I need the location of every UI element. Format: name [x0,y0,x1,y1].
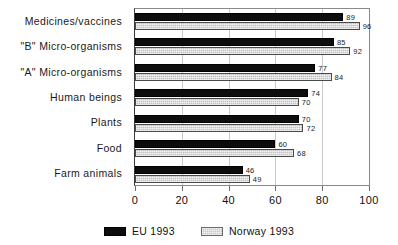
legend-swatch-icon [104,227,126,236]
legend-label: Norway 1993 [229,225,294,237]
bar-value-label: 92 [353,48,362,56]
bar-value-label: 68 [297,150,306,158]
x-axis-tick [229,186,230,191]
category-label: Food [97,142,122,154]
bar-value-label: 46 [246,167,255,175]
category-label: Human beings [50,91,122,103]
x-axis-tick-label: 20 [175,193,188,207]
bar-no [135,73,332,81]
bar-value-label: 49 [253,176,262,184]
bar-no [135,22,360,30]
bar-no [135,175,250,183]
category-axis-labels: Medicines/vaccines"B" Micro-organisms"A"… [0,8,128,186]
category-label: "B" Micro-organisms [20,40,122,52]
bar-group: 6068 [135,140,369,165]
category-label: "A" Micro-organisms [20,66,122,78]
bar-value-label: 72 [306,125,315,133]
bar-eu [135,13,343,21]
legend-label: EU 1993 [132,225,175,237]
x-axis-tick-label: 40 [222,193,235,207]
bar-value-label: 96 [363,23,372,31]
x-axis-tick [322,186,323,191]
bar-no [135,149,294,157]
bar-value-label: 85 [337,39,346,47]
legend-swatch-icon [201,227,223,236]
x-axis-tick-label: 80 [316,193,329,207]
bar-group: 7470 [135,89,369,114]
bar-value-label: 84 [335,74,344,82]
bar-eu [135,166,243,174]
legend-item[interactable]: Norway 1993 [201,225,294,237]
x-axis-tick [275,186,276,191]
x-axis-tick-labels: 020406080100 [134,193,370,207]
bar-no [135,98,299,106]
bar-value-label: 77 [318,65,327,73]
bar-no [135,47,350,55]
bar-value-label: 89 [346,14,355,22]
x-axis-tick [182,186,183,191]
bar-eu [135,89,308,97]
x-axis-tick-label: 0 [132,193,138,207]
x-axis-tick-label: 60 [269,193,282,207]
bar-value-label: 74 [311,90,320,98]
bar-eu [135,115,299,123]
bar-group: 7784 [135,64,369,89]
x-axis-tick [135,186,136,191]
x-axis-ticks [134,186,370,191]
bar-chart: Medicines/vaccines"B" Micro-organisms"A"… [0,0,398,245]
x-axis-tick-label: 100 [359,193,378,207]
bar-eu [135,64,315,72]
bar-no [135,124,303,132]
bar-group: 8592 [135,38,369,63]
bar-eu [135,140,275,148]
bar-value-label: 60 [278,141,287,149]
bar-value-label: 70 [302,116,311,124]
bar-eu [135,38,334,46]
plot-area: 8996859277847470707260684649 [134,8,370,186]
chart-legend: EU 1993Norway 1993 [0,222,398,240]
bar-value-label: 70 [302,99,311,107]
category-label: Farm animals [54,167,122,179]
legend-item[interactable]: EU 1993 [104,225,175,237]
bar-group: 7072 [135,115,369,140]
x-axis-tick [369,186,370,191]
bar-group: 8996 [135,13,369,38]
category-label: Plants [91,116,122,128]
category-label: Medicines/vaccines [25,15,122,27]
